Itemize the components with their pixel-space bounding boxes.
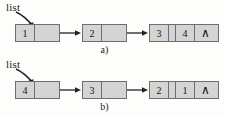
node-next-pointer (35, 82, 59, 98)
node-value: 2 (150, 82, 169, 98)
link-arrow-icon (127, 86, 149, 94)
node-next-pointer (102, 82, 126, 98)
nodes-track-a: 1 2 3 (0, 24, 225, 44)
subfigure-caption-a: a) (0, 44, 217, 55)
node-value: 4 (16, 82, 35, 98)
list-pointer-label-a: list (6, 2, 20, 13)
node-next-pointer (102, 25, 126, 41)
node-value: 4 (176, 25, 195, 41)
node-value: 1 (176, 82, 195, 98)
link-arrow-icon (60, 29, 82, 37)
link-arrow-icon (60, 86, 82, 94)
list-node: 3 (82, 81, 127, 99)
node-value: 2 (83, 25, 102, 41)
nodes-track-b: 4 3 2 (0, 81, 225, 101)
linked-list-row-b: list 4 3 2 (0, 57, 225, 112)
link-arrow-icon (127, 29, 149, 37)
subfigure-caption-b: b) (0, 101, 217, 112)
list-node: 4 (15, 81, 60, 99)
node-next-pointer (35, 25, 59, 41)
node-value: 3 (83, 82, 102, 98)
node-value: 1 (16, 25, 35, 41)
list-pointer-label-b: list (6, 59, 20, 70)
list-node: 1 (15, 24, 60, 42)
linked-list-row-a: list 1 2 3 (0, 0, 225, 55)
list-node-tail: 4 ∧ (175, 24, 219, 42)
list-node-tail: 1 ∧ (175, 81, 219, 99)
node-value: 3 (150, 25, 169, 41)
linked-list-figure: list 1 2 3 (0, 0, 225, 117)
null-pointer-symbol: ∧ (195, 82, 216, 98)
null-pointer-symbol: ∧ (195, 25, 216, 41)
list-node: 2 (82, 24, 127, 42)
